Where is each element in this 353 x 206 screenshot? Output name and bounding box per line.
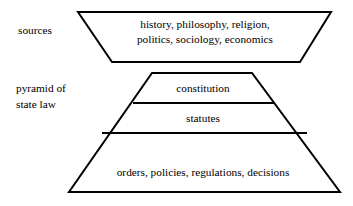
sources-text-line-1: history, philosophy, religion, <box>140 18 270 30</box>
pyramid-label-line-2: state law <box>16 98 57 110</box>
diagram-canvas: history, philosophy, religion, politics,… <box>0 0 353 206</box>
pyramid-tier-1-label: constitution <box>176 82 230 94</box>
pyramid-label-line-1: pyramid of <box>16 82 66 94</box>
sources-text-line-2: politics, sociology, economics <box>137 33 273 45</box>
pyramid-tier-3-label: orders, policies, regulations, decisions <box>117 166 290 178</box>
pyramid-tier-2-label: statutes <box>186 112 220 124</box>
sources-label: sources <box>18 24 52 36</box>
diagram-svg: history, philosophy, religion, politics,… <box>0 0 353 206</box>
